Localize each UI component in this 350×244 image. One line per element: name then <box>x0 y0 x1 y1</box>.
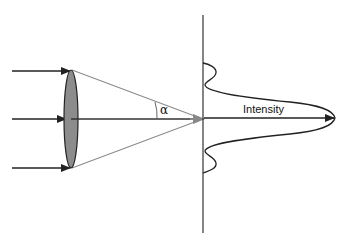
cone-line-bottom <box>72 120 200 168</box>
intensity-label: Intensity <box>243 103 284 115</box>
angle-label: α <box>160 103 168 117</box>
cone-line-top <box>72 70 200 118</box>
angle-arc <box>155 102 157 119</box>
optics-diagram: α Intensity <box>0 0 350 244</box>
